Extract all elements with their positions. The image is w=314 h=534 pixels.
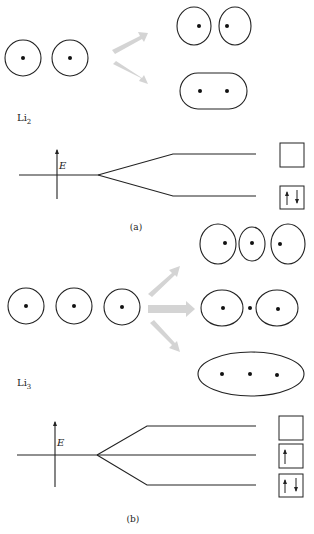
energy-axis-label: E xyxy=(58,160,67,171)
panel-b: Li3 E (b) xyxy=(8,224,305,524)
orbital-diagram: Li2 E (a) xyxy=(0,0,314,534)
occupancy-box-empty xyxy=(280,143,304,167)
panel-a: Li2 E (a) xyxy=(5,7,304,232)
li-atom xyxy=(8,288,44,324)
transition-arrow-up xyxy=(112,32,148,54)
li-atom xyxy=(56,288,92,324)
occupancy-box-empty xyxy=(279,416,303,440)
energy-axis-label: E xyxy=(56,437,65,448)
li-atom xyxy=(104,289,140,325)
transition-arrow-down xyxy=(150,320,180,352)
nonbonding-orbital xyxy=(201,290,298,326)
transition-arrow-down xyxy=(113,61,148,84)
energy-diagram xyxy=(17,422,256,487)
li-atom xyxy=(5,40,41,76)
bonding-orbital xyxy=(198,352,304,396)
caption-b: (b) xyxy=(127,514,140,524)
molecule-label: Li3 xyxy=(17,377,31,391)
occupancy-box-paired xyxy=(280,186,304,209)
transition-arrow-right xyxy=(148,301,195,317)
li-atom xyxy=(52,40,88,76)
antibonding-orbital xyxy=(177,7,251,45)
occupancy-box-paired xyxy=(279,474,303,497)
molecule-label: Li2 xyxy=(17,112,31,126)
antibonding-orbital xyxy=(200,224,305,264)
caption-a: (a) xyxy=(130,222,142,232)
transition-arrow-up xyxy=(148,266,180,297)
energy-diagram xyxy=(19,150,256,199)
occupancy-box-single xyxy=(279,444,303,468)
bonding-orbital xyxy=(180,73,247,109)
